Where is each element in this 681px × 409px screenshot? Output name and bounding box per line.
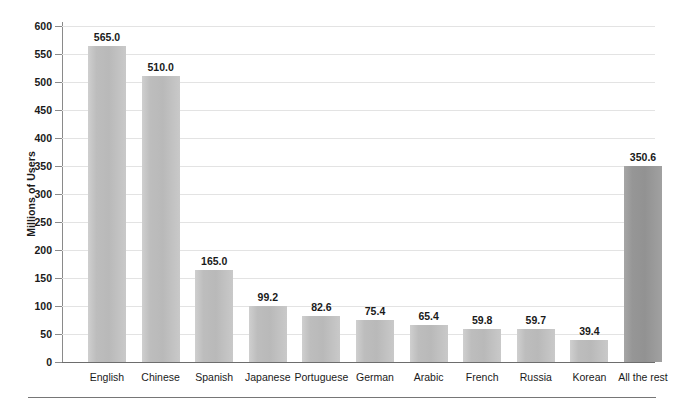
y-axis-tick-label: 350	[6, 161, 52, 172]
y-axis-tick-label: 0	[6, 357, 52, 368]
y-axis-tick-label: 600	[6, 21, 52, 32]
y-axis-tick-mark	[55, 222, 62, 223]
y-axis-tick-mark	[55, 166, 62, 167]
y-axis-tick-label: 450	[6, 105, 52, 116]
footer-divider	[28, 397, 656, 398]
y-axis-tick-label: 150	[6, 273, 52, 284]
bar-value-label: 39.4	[556, 325, 622, 337]
y-axis-tick-mark	[55, 194, 62, 195]
bar	[142, 76, 180, 362]
y-axis-tick-labels: 050100150200250300350400450500550600	[0, 0, 52, 409]
y-axis-tick-label: 300	[6, 189, 52, 200]
y-axis-tick-mark	[55, 334, 62, 335]
bar	[356, 320, 394, 362]
y-axis-tick-mark	[55, 110, 62, 111]
y-axis-tick-mark	[55, 54, 62, 55]
y-axis-tick-mark	[55, 82, 62, 83]
bar-chart-figure: Millions of Users 0501001502002503003504…	[0, 0, 681, 409]
bar	[302, 316, 340, 362]
bar	[410, 325, 448, 362]
x-axis-line	[62, 362, 655, 363]
gridline	[62, 54, 655, 55]
x-axis-category-label: All the rest	[608, 371, 678, 384]
y-axis-tick-label: 550	[6, 49, 52, 60]
y-axis-tick-mark	[55, 26, 62, 27]
bar-value-label: 350.6	[610, 151, 676, 163]
bar-value-label: 565.0	[74, 31, 140, 43]
y-axis-tick-mark	[55, 138, 62, 139]
bar	[88, 46, 126, 362]
bar	[517, 329, 555, 362]
y-axis-tick-mark	[55, 362, 62, 363]
y-axis-tick-label: 100	[6, 301, 52, 312]
y-axis-tick-mark	[55, 278, 62, 279]
bar-value-label: 510.0	[128, 61, 194, 73]
bar	[624, 166, 662, 362]
bar	[570, 340, 608, 362]
bar	[463, 329, 501, 362]
bar	[195, 270, 233, 362]
y-axis-tick-label: 200	[6, 245, 52, 256]
bar	[249, 306, 287, 362]
y-axis-tick-mark	[55, 306, 62, 307]
gridline	[62, 26, 655, 27]
y-axis-tick-label: 400	[6, 133, 52, 144]
y-axis-tick-label: 500	[6, 77, 52, 88]
bar-value-label: 165.0	[181, 255, 247, 267]
y-axis-tick-label: 50	[6, 329, 52, 340]
y-axis-tick-mark	[55, 250, 62, 251]
y-axis-tick-label: 250	[6, 217, 52, 228]
bar-value-label: 59.7	[503, 314, 569, 326]
